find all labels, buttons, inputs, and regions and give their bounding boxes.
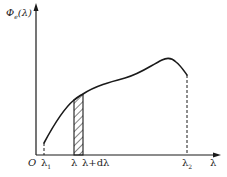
lambda-plus-dlambda-label: λ+dλ: [82, 158, 109, 168]
y-axis-label: Φe(λ): [6, 8, 32, 20]
lambda1-label: λ1: [41, 158, 51, 170]
origin-label: O: [28, 158, 36, 168]
spectral-curve: [44, 58, 187, 143]
lambda-label: λ: [71, 158, 77, 168]
spectral-flux-diagram: [0, 0, 227, 177]
x-axis-label: λ: [210, 158, 216, 168]
lambda2-label: λ2: [182, 158, 192, 170]
hatched-strip: [74, 94, 83, 155]
y-axis-arrow-icon: [34, 3, 39, 11]
